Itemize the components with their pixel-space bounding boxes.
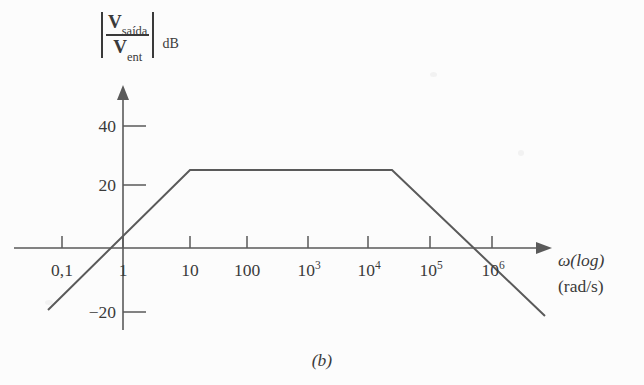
x-tick-label-1e6: 106 [465,262,521,280]
y-tick-label-20: 20 [84,177,116,195]
x-tick-1e5-mantissa: 10 [419,260,437,280]
gain-fraction: Vsaída Vent [106,12,149,58]
denominator-symbol: V [113,36,127,57]
x-tick-label-100: 100 [217,262,277,280]
numerator-subscript: saída [122,24,148,38]
x-tick-label-1e3: 103 [281,262,337,280]
numerator-symbol: V [108,11,122,32]
x-tick-1e4-exponent: 4 [375,259,381,271]
abs-bar-left [101,12,103,58]
x-axis-arrowhead [536,242,552,254]
x-tick-label-1e5: 105 [403,262,459,280]
figure-caption: (b) [0,350,644,371]
x-axis-units: (rad/s) [558,278,604,296]
denominator: Vent [111,37,144,58]
x-tick-1e3-exponent: 3 [315,259,321,271]
bode-plot-figure: Vsaída Vent dB 40 20 −20 0,1 1 10 100 10… [0,0,644,385]
x-tick-1e3-mantissa: 10 [297,260,315,280]
abs-bar-right [152,12,154,58]
x-tick-label-1e4: 104 [341,262,397,280]
y-tick-label-40: 40 [84,118,116,136]
x-tick-1e4-mantissa: 10 [357,260,375,280]
x-tick-1e5-exponent: 5 [437,259,443,271]
x-tick-1e6-mantissa: 10 [481,260,499,280]
y-axis-arrowhead [117,85,129,100]
denominator-subscript: ent [127,50,142,64]
x-tick-label-1: 1 [103,262,143,280]
numerator: Vsaída [106,12,149,33]
x-axis-title: ω(log) [558,252,604,270]
x-axis-title-text: ω(log) [558,250,604,270]
y-tick-label-neg20: −20 [70,304,116,322]
y-axis-label: Vsaída Vent dB [98,12,179,58]
y-axis-unit-db: dB [162,36,178,52]
x-tick-label-10: 10 [165,262,215,280]
x-tick-label-0.1: 0,1 [32,262,92,280]
x-tick-1e6-exponent: 6 [499,259,505,271]
